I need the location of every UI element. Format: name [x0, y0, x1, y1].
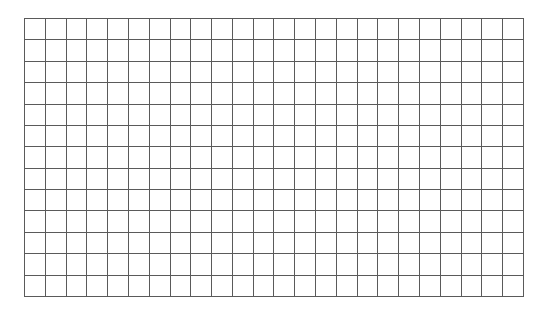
- grid-cell: [190, 104, 211, 125]
- grid-cell: [377, 39, 398, 60]
- grid-cell: [24, 232, 45, 253]
- grid-cell: [128, 210, 149, 231]
- grid-cell: [273, 232, 294, 253]
- grid-cell: [253, 125, 274, 146]
- grid-cell: [419, 125, 440, 146]
- grid-cell: [336, 18, 357, 39]
- grid-cell: [357, 146, 378, 167]
- grid-cell: [211, 275, 232, 296]
- grid-cell: [461, 39, 482, 60]
- grid-cell: [294, 253, 315, 274]
- grid-cell: [149, 253, 170, 274]
- grid-cell: [170, 39, 191, 60]
- grid-cell: [128, 146, 149, 167]
- grid-cell: [107, 39, 128, 60]
- grid-cell: [232, 104, 253, 125]
- grid-cell: [502, 253, 523, 274]
- grid-cell: [190, 189, 211, 210]
- grid-cell: [45, 146, 66, 167]
- grid-cell: [170, 253, 191, 274]
- grid-cell: [211, 125, 232, 146]
- grid-cell: [170, 146, 191, 167]
- grid-cell: [190, 61, 211, 82]
- grid-cell: [315, 275, 336, 296]
- grid-cell: [170, 189, 191, 210]
- grid-cell: [107, 189, 128, 210]
- grid-cell: [481, 210, 502, 231]
- grid-cell: [357, 125, 378, 146]
- grid-cell: [336, 39, 357, 60]
- grid-cell: [502, 189, 523, 210]
- grid-cell: [86, 275, 107, 296]
- grid-cell: [336, 146, 357, 167]
- grid-cell: [253, 104, 274, 125]
- grid-cell: [45, 189, 66, 210]
- grid-cell: [232, 253, 253, 274]
- grid-cell: [294, 61, 315, 82]
- grid-cell: [357, 253, 378, 274]
- grid-cell: [170, 18, 191, 39]
- grid-cell: [24, 18, 45, 39]
- grid-cell: [24, 275, 45, 296]
- grid-cell: [24, 104, 45, 125]
- grid-cell: [294, 232, 315, 253]
- grid-cell: [336, 104, 357, 125]
- grid-cell: [461, 189, 482, 210]
- grid-cell: [502, 18, 523, 39]
- grid-cell: [24, 253, 45, 274]
- grid-cell: [273, 275, 294, 296]
- grid-cell: [419, 275, 440, 296]
- grid-cell: [253, 146, 274, 167]
- grid-cell: [253, 253, 274, 274]
- grid-cell: [315, 146, 336, 167]
- grid-cell: [419, 82, 440, 103]
- grid-cell: [211, 61, 232, 82]
- grid-cell: [170, 125, 191, 146]
- grid-cell: [190, 39, 211, 60]
- grid-cell: [86, 39, 107, 60]
- grid-cell: [149, 39, 170, 60]
- grid-cell: [170, 275, 191, 296]
- grid-cell: [440, 146, 461, 167]
- grid-cell: [357, 61, 378, 82]
- grid-cell: [502, 82, 523, 103]
- grid-cell: [502, 210, 523, 231]
- grid-cell: [502, 104, 523, 125]
- grid-cell: [170, 82, 191, 103]
- grid-cell: [45, 39, 66, 60]
- grid-cell: [336, 125, 357, 146]
- grid-cell: [315, 125, 336, 146]
- grid-cell: [232, 275, 253, 296]
- grid-cell: [440, 210, 461, 231]
- grid-cell: [377, 125, 398, 146]
- grid-cell: [253, 275, 274, 296]
- grid-cell: [336, 210, 357, 231]
- grid-cell: [357, 189, 378, 210]
- grid-cell: [419, 39, 440, 60]
- grid-cell: [377, 104, 398, 125]
- grid-cell: [336, 168, 357, 189]
- grid-cell: [315, 82, 336, 103]
- grid-cell: [149, 125, 170, 146]
- grid-cell: [481, 189, 502, 210]
- grid-cell: [170, 104, 191, 125]
- grid-cell: [294, 104, 315, 125]
- grid-cell: [128, 104, 149, 125]
- grid-cell: [315, 61, 336, 82]
- grid-cell: [211, 39, 232, 60]
- grid-cell: [377, 232, 398, 253]
- grid-cell: [481, 82, 502, 103]
- grid-cell: [253, 210, 274, 231]
- grid-cell: [294, 168, 315, 189]
- grid-cell: [45, 232, 66, 253]
- grid-cell: [86, 168, 107, 189]
- grid-cell: [253, 232, 274, 253]
- grid-cell: [232, 61, 253, 82]
- grid-cell: [357, 18, 378, 39]
- grid-cell: [107, 104, 128, 125]
- grid-cell: [211, 232, 232, 253]
- grid-cell: [66, 39, 87, 60]
- grid-cell: [253, 18, 274, 39]
- grid-cell: [336, 189, 357, 210]
- grid-cell: [86, 82, 107, 103]
